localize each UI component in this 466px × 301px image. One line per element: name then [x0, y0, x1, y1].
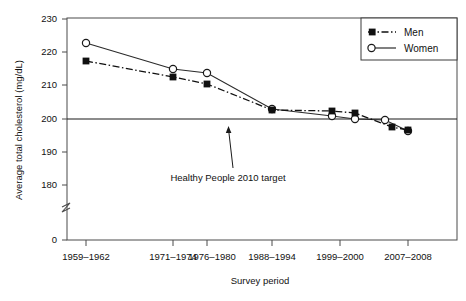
legend-marker-women-icon [368, 44, 375, 51]
y-tick-label-180: 180 [41, 179, 57, 190]
x-axis-title: Survey period [231, 275, 290, 286]
x-tick-label-2007-2008: 2007–2008 [384, 251, 432, 262]
y-tick-label-220: 220 [41, 46, 57, 57]
x-tick-label-1959-1962: 1959–1962 [62, 251, 110, 262]
chart-legend: Men Women [361, 18, 457, 60]
y-tick-label-200: 200 [41, 113, 57, 124]
x-tick-label-1988-1994: 1988–1994 [248, 251, 296, 262]
x-tick-label-1999-2000: 1999–2000 [316, 251, 364, 262]
chart-canvas: 230 220 210 200 190 180 0 Average total … [0, 0, 466, 301]
legend-label-women: Women [404, 43, 438, 54]
legend-marker-men-icon [369, 29, 376, 36]
y-axis-title: Average total cholesterol (mg/dL) [13, 60, 24, 200]
target-annotation-label: Healthy People 2010 target [170, 172, 285, 183]
y-tick-label-0: 0 [52, 234, 57, 245]
cholesterol-trend-chart: 230 220 210 200 190 180 0 Average total … [0, 0, 466, 301]
y-tick-label-210: 210 [41, 79, 57, 90]
y-tick-label-190: 190 [41, 146, 57, 157]
x-tick-label-1976-1980: 1976–1980 [188, 251, 236, 262]
y-tick-label-230: 230 [41, 13, 57, 24]
legend-label-men: Men [404, 27, 423, 38]
x-axis-ticks [86, 240, 408, 246]
